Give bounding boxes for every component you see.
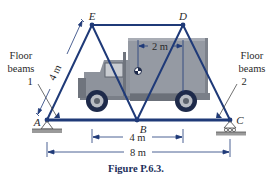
node-C-label: C (236, 114, 244, 126)
dimension-2m-label: 2 m (152, 41, 168, 52)
node-A-label: A (33, 116, 41, 128)
truss-figure: 2 m 4 (0, 0, 272, 178)
node-D-label: D (178, 10, 187, 22)
front-wheel (86, 90, 108, 112)
floor-beams-2-label: Floor beams 2 (219, 50, 265, 116)
center-of-gravity-icon (135, 68, 142, 75)
svg-text:1: 1 (27, 76, 32, 87)
svg-text:beams: beams (8, 63, 35, 74)
node-E-label: E (88, 10, 96, 22)
svg-text:2: 2 (241, 76, 246, 87)
truck (78, 38, 210, 112)
dimension-8m-span-label: 8 m (130, 147, 146, 158)
dimension-4m-span-label: 4 m (129, 132, 145, 143)
svg-text:beams: beams (239, 63, 266, 74)
svg-text:Floor: Floor (241, 50, 264, 61)
floor-beams-1-label: Floor beams 1 (8, 50, 57, 117)
dimension-AE-label: 4 m (46, 63, 63, 82)
figure-caption: Figure P.6.3. (108, 163, 164, 174)
rear-wheel (175, 90, 197, 112)
svg-text:Floor: Floor (10, 50, 33, 61)
